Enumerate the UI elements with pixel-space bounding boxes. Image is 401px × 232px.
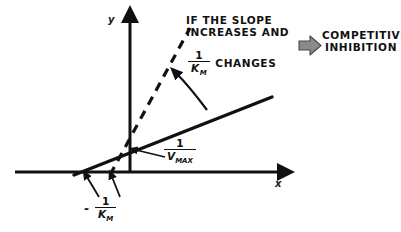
vmax-label: 1 VMAX	[164, 138, 196, 165]
slope-change-curved-arrow	[177, 74, 207, 110]
slope-note-text: IF THE SLOPE INCREASES AND	[186, 14, 298, 39]
vmax-numerator: 1	[164, 138, 196, 149]
negkm-subscript: M	[106, 215, 113, 223]
km-symbol: K	[191, 62, 200, 74]
vmax-pointer-arrow	[136, 150, 165, 157]
neg-km-label: - 1 KM	[84, 196, 116, 223]
vmax-symbol: V	[167, 150, 175, 162]
one-over-km-fraction: 1 KM	[188, 50, 210, 77]
result-text: COMPETITIVE INHIBITION	[322, 29, 400, 54]
negkm-denominator: KM	[95, 209, 116, 223]
negkm-symbol: K	[98, 208, 106, 220]
fraction-denominator: KM	[188, 63, 210, 77]
right-block-arrow-icon	[299, 36, 321, 55]
slope-note-line-2: INCREASES AND	[186, 26, 298, 38]
negkm-numerator: 1	[95, 196, 116, 207]
result-line-2: INHIBITION	[322, 41, 400, 53]
x-axis-label: x	[275, 178, 281, 190]
km-pointer-arrow-right	[112, 177, 120, 197]
slope-note-line-1: IF THE SLOPE	[186, 14, 298, 26]
vmax-subscript: MAX	[175, 157, 193, 165]
km-changes-row: 1 KM CHANGES	[188, 50, 276, 77]
one-over-vmax-fraction: 1 VMAX	[164, 138, 196, 165]
km-pointer-arrow-left	[87, 177, 99, 197]
y-axis-label: y	[108, 14, 115, 26]
km-subscript: M	[200, 69, 208, 77]
vmax-denominator: VMAX	[164, 151, 196, 165]
minus-sign: -	[84, 202, 89, 216]
fraction-numerator: 1	[188, 50, 210, 61]
changes-word: CHANGES	[215, 57, 276, 69]
result-line-1: COMPETITIVE	[322, 29, 400, 41]
neg-one-over-km-fraction: 1 KM	[95, 196, 116, 223]
lineweaver-burk-figure: y x IF THE SLOPE INCREASES AND 1 KM CHAN…	[0, 0, 401, 232]
